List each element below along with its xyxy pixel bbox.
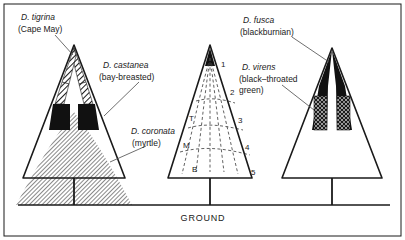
ground-label: GROUND: [181, 213, 226, 223]
zone-number-2: 2: [230, 88, 235, 97]
species-zone-tigrina-left-lower: [55, 82, 69, 104]
warbler-niche-figure: 1 2 3 4 5 T M B GROUND D. tigrina: [0, 0, 405, 240]
zone-number-3: 3: [238, 116, 243, 125]
zone-number-1: 1: [221, 60, 226, 69]
species-zone-virens-right: [337, 96, 350, 130]
zone-letter-t: T: [189, 114, 194, 123]
zone-letter-m: M: [183, 141, 190, 150]
species-label-tigrina-latin: D. tigrina: [21, 12, 55, 22]
leader-virens: [282, 85, 314, 110]
leader-lines: [55, 35, 329, 162]
species-label-castanea-latin: D. castanea: [103, 60, 149, 70]
species-label-coronata-common: (myrtle): [132, 138, 161, 148]
species-label-virens-latin: D. virens: [242, 62, 276, 72]
species-label-tigrina-common: (Cape May): [18, 24, 63, 34]
figure-canvas: 1 2 3 4 5 T M B GROUND D. tigrina: [0, 0, 405, 240]
tree-right-canopy-outline: [282, 48, 382, 178]
species-label-fusca-latin: D. fusca: [243, 15, 274, 25]
species-zone-castanea-right: [78, 104, 99, 130]
zone-number-5: 5: [251, 168, 256, 177]
leader-castanea: [104, 82, 139, 116]
zone-letter-b: B: [192, 165, 197, 174]
species-zone-tigrina-left: [62, 48, 76, 84]
species-zone-castanea-left: [49, 104, 70, 130]
leader-fusca: [292, 37, 329, 62]
species-zone-virens-left: [314, 96, 327, 130]
tree-right: [282, 48, 382, 205]
species-label-coronata-latin: D. coronata: [131, 126, 175, 136]
species-label-castanea-common: (bay-breasted): [99, 72, 154, 82]
species-label-fusca-common: (blackburnian): [240, 27, 294, 37]
zone-number-4: 4: [245, 143, 250, 152]
species-zone-tigrina-right-lower: [79, 82, 93, 104]
leader-tigrina: [55, 35, 73, 55]
